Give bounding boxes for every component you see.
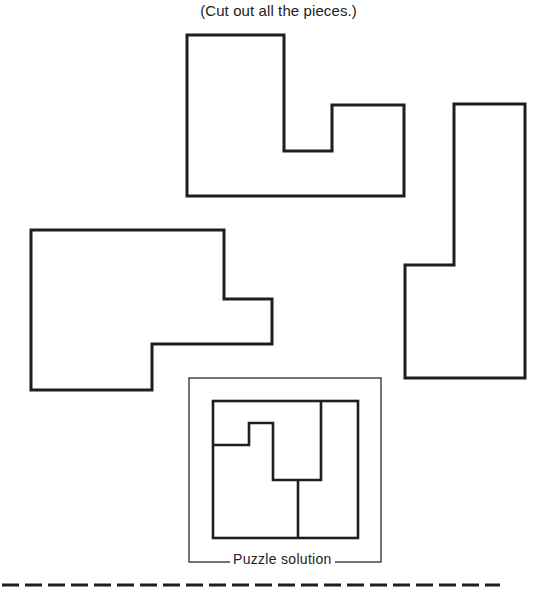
piece-top-notched[interactable] [187,35,404,196]
solution-divider-top-piece [213,401,321,480]
piece-left-stepped[interactable] [31,230,272,390]
solution-diagram [213,401,358,538]
solution-square [213,401,358,538]
puzzle-canvas [0,0,557,601]
solution-label: Puzzle solution [230,551,335,567]
solution-frame [189,378,381,562]
piece-right-tall[interactable] [405,104,525,378]
